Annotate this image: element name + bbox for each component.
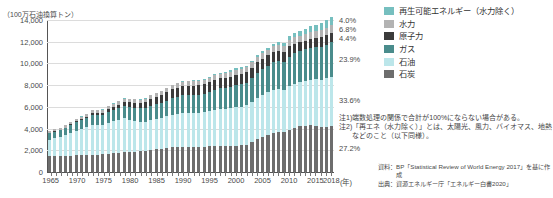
bar-segment [208, 146, 211, 172]
bar-segment [293, 44, 296, 54]
bar [208, 77, 211, 172]
bar-segment [309, 80, 312, 125]
footnotes: 注1)端数処理の関係で合計が100%にならない場合がある。注2)「再エネ（水力除… [339, 113, 553, 141]
bar-segment [304, 34, 307, 41]
bar-segment [314, 47, 317, 79]
bar-segment [288, 130, 291, 172]
x-axis-tick [225, 172, 226, 176]
x-axis-tick [120, 172, 121, 176]
x-axis-tick [157, 172, 158, 176]
x-axis-tick-label: 2000 [228, 176, 245, 185]
bar-segment [107, 112, 110, 123]
bar-segment [304, 126, 307, 172]
bar-segment [304, 41, 307, 50]
bar-segment [320, 80, 323, 127]
bar-segment [245, 145, 248, 172]
x-axis-tick [305, 172, 306, 176]
bar-segment [107, 123, 110, 154]
x-axis-tick [135, 172, 136, 176]
bar [112, 103, 115, 172]
x-axis-unit-label: (年) [340, 176, 352, 187]
bar-segment [69, 156, 72, 172]
bar-segment [229, 146, 232, 172]
x-axis-tick [178, 172, 179, 176]
x-axis-tick [104, 172, 105, 176]
bar [64, 125, 67, 172]
legend-label: 原子力 [399, 32, 423, 40]
bar-segment [128, 120, 131, 152]
bar-segment [208, 82, 211, 92]
bar-segment [101, 154, 104, 172]
bar-segment [234, 85, 237, 107]
bar-segment [160, 95, 163, 103]
x-axis-tick [310, 172, 311, 176]
bar [213, 74, 216, 172]
bar-segment [229, 77, 232, 87]
x-axis-tick [172, 172, 173, 176]
legend-label: 水力 [399, 20, 415, 28]
bar-segment [219, 109, 222, 146]
bar-segment [176, 88, 179, 97]
legend-swatch [384, 32, 394, 40]
bar-segment [277, 51, 280, 62]
legend-item[interactable]: 石炭 [384, 68, 519, 81]
x-axis-tick-label: 1990 [175, 176, 192, 185]
source-label: 資料： [378, 163, 396, 180]
bar-segment [325, 20, 328, 27]
bar-segment [144, 122, 147, 152]
source-credits: 資料：BP「Statistical Review of World Energy… [378, 163, 553, 188]
x-axis-tick [167, 172, 168, 176]
bar-segment [203, 94, 206, 113]
bar-segment [219, 88, 222, 108]
bar-segment [245, 72, 248, 83]
bar [85, 114, 88, 172]
x-axis-tick-label: 2015 [307, 176, 324, 185]
legend-item[interactable]: 水力 [384, 18, 519, 31]
legend-item[interactable]: 再生可能エネルギー（水力除く） [384, 5, 519, 18]
legend-item[interactable]: 石油 [384, 55, 519, 68]
bar-segment [112, 121, 115, 153]
footnote: 注2)「再エネ（水力除く）」とは、太陽光、風力、バイオマス、地熱などのこと（以下… [339, 122, 553, 140]
bar-segment [80, 129, 83, 155]
bar [203, 79, 206, 172]
bar-segment [309, 32, 312, 39]
bar-segment [139, 151, 142, 172]
x-axis-tick [241, 172, 242, 176]
bar [266, 48, 269, 172]
bar [133, 99, 136, 172]
bar [272, 44, 275, 172]
bar-segment [139, 122, 142, 152]
bar-segment [160, 118, 163, 149]
bar-segment [165, 92, 168, 100]
bar-segment [101, 125, 104, 154]
bar-segment [298, 42, 301, 51]
x-axis-tick [56, 172, 57, 176]
x-axis-tick [151, 172, 152, 176]
bar-segment [314, 38, 317, 47]
legend-label: 石油 [399, 58, 415, 66]
bar-segment [192, 95, 195, 113]
bar [75, 119, 78, 172]
x-axis-tick [257, 172, 258, 176]
bar-segment [234, 107, 237, 146]
bar-segment [282, 90, 285, 132]
x-axis-tick [252, 172, 253, 176]
x-axis-tick [199, 172, 200, 176]
bar [149, 95, 152, 172]
bar-segment [203, 84, 206, 94]
bar [309, 26, 312, 172]
bar [160, 91, 163, 172]
bar [59, 128, 62, 172]
bar-segment [272, 62, 275, 89]
x-axis-tick [294, 172, 295, 176]
bar-segment [176, 97, 179, 114]
legend-item[interactable]: 原子力 [384, 30, 519, 43]
bar-segment [80, 155, 83, 172]
bar [245, 66, 248, 172]
bar-segment [117, 108, 120, 120]
source-label: 出典： [378, 180, 396, 188]
bar-segment [229, 87, 232, 108]
legend-item[interactable]: ガス [384, 43, 519, 56]
x-axis-tick [247, 172, 248, 176]
bar-segment [325, 45, 328, 79]
